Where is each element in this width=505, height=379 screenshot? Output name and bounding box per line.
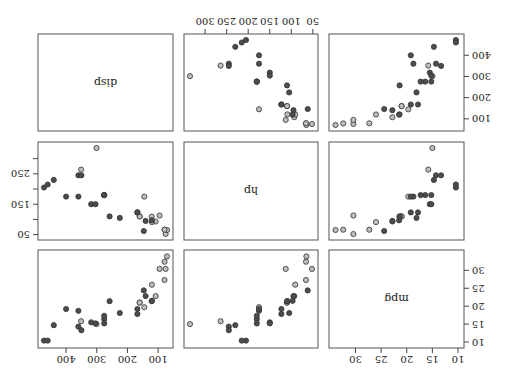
data-point [431, 177, 436, 182]
data-point [418, 79, 423, 84]
data-point [107, 214, 112, 219]
data-point [351, 117, 356, 122]
data-point [93, 321, 98, 326]
data-point [303, 121, 308, 126]
y-tick-label-disp: 300 [472, 71, 491, 82]
data-point [408, 102, 413, 107]
y-tick-label-mpg: 25 [472, 283, 485, 294]
x-tick-label-mpg: 30 [349, 354, 362, 365]
data-point [390, 115, 395, 120]
data-point [290, 112, 295, 117]
data-point [79, 328, 84, 333]
data-point [415, 102, 420, 107]
data-point [426, 167, 431, 172]
data-point [284, 104, 289, 109]
data-point [303, 277, 308, 282]
data-point [187, 322, 192, 327]
data-point [406, 107, 411, 112]
y-tick-label-hp: 50 [17, 229, 30, 240]
data-point [439, 63, 444, 68]
x-tick-label-mpg: 10 [452, 354, 465, 365]
data-point [102, 321, 107, 326]
data-point [149, 282, 154, 287]
data-point [226, 328, 231, 333]
data-point [254, 79, 259, 84]
data-point [45, 182, 50, 187]
data-point [408, 194, 413, 199]
data-point [415, 210, 420, 215]
data-point [218, 63, 223, 68]
data-point [254, 321, 259, 326]
data-point [157, 213, 162, 218]
data-point [408, 53, 413, 58]
data-point [187, 74, 192, 79]
data-point [143, 294, 148, 299]
data-point [76, 308, 81, 313]
data-point [293, 282, 298, 287]
data-point [93, 202, 98, 207]
data-point [141, 228, 146, 233]
data-point [284, 83, 289, 88]
data-point [162, 259, 167, 264]
data-point [254, 313, 259, 318]
data-point [218, 319, 223, 324]
data-point [429, 202, 434, 207]
data-point [414, 215, 419, 220]
x-tick-label-hp: 200 [239, 16, 258, 27]
data-point [399, 104, 404, 109]
panel-hp-vs-disp [38, 142, 173, 240]
x-tick-label-hp: 300 [196, 16, 215, 27]
data-point [117, 215, 122, 220]
y-tick-label-disp: 400 [472, 50, 491, 61]
pairs-plot-figure: mpghpdisp1015202530501001502002503001002… [0, 0, 505, 379]
data-point [341, 227, 346, 232]
data-point [117, 310, 122, 315]
panel-disp-vs-hp [184, 34, 318, 131]
data-point [256, 107, 261, 112]
data-point [162, 227, 167, 232]
data-point [309, 121, 314, 126]
y-tick-label-hp: 150 [11, 199, 30, 210]
x-tick-label-hp: 50 [306, 16, 319, 27]
data-point [351, 213, 356, 218]
data-point [141, 288, 146, 293]
data-point [287, 310, 292, 315]
diagonal-label-disp: disp [94, 76, 117, 89]
data-point [290, 298, 295, 303]
data-point [256, 61, 261, 66]
data-point [333, 122, 338, 127]
data-point [149, 298, 154, 303]
data-point [408, 210, 413, 215]
data-point [287, 90, 292, 95]
panel-hp-vs-mpg [329, 142, 464, 240]
data-point [397, 83, 402, 88]
data-point [51, 177, 56, 182]
y-tick-label-disp: 100 [472, 113, 491, 124]
data-point [333, 227, 338, 232]
data-point [291, 294, 296, 299]
data-point [45, 338, 50, 343]
data-point [285, 112, 290, 117]
data-point [233, 44, 238, 49]
y-tick-label-mpg: 10 [472, 337, 485, 348]
data-point [382, 106, 387, 111]
data-point [373, 112, 378, 117]
data-point [305, 288, 310, 293]
data-point [279, 306, 284, 311]
data-point [162, 277, 167, 282]
y-tick-label-hp: 250 [11, 168, 30, 179]
x-tick-label-disp: 200 [118, 354, 137, 365]
data-point [135, 306, 140, 311]
data-point [430, 145, 435, 150]
data-point [351, 231, 356, 236]
data-point [283, 117, 288, 122]
data-point [453, 182, 458, 187]
scatterplot-matrix: mpghpdisp1015202530501001502002503001002… [0, 0, 505, 379]
data-point [256, 306, 261, 311]
data-point [341, 121, 346, 126]
x-tick-label-disp: 300 [87, 354, 106, 365]
data-point [303, 259, 308, 264]
data-point [283, 266, 288, 271]
data-point [431, 44, 436, 49]
data-point [414, 90, 419, 95]
